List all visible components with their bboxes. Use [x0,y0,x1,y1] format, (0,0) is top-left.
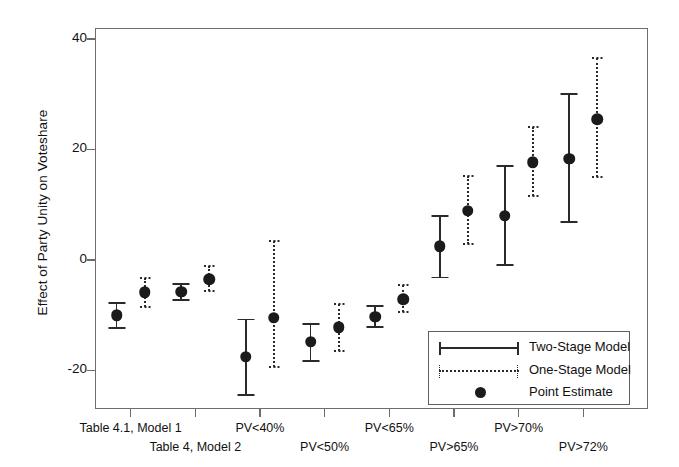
y-axis-tick [87,259,95,260]
error-bar-cap [139,306,150,308]
error-bar-cap [268,366,279,368]
error-bar-cap [173,299,190,301]
error-bar-cap [108,302,125,304]
dotted-line-icon [435,359,525,383]
error-bar-cap [204,265,215,267]
error-bar-cap [592,176,603,178]
chart-legend: Two-Stage Model One-Stage Model Point Es… [428,331,630,405]
x-axis-tick-label: PV<50% [300,440,349,454]
y-axis-tick [87,149,95,150]
error-bar-cap [431,215,448,217]
error-bar-cap [398,284,409,286]
error-bar-cap [496,264,513,266]
x-axis-tick [130,409,131,417]
y-axis-tick-label: 20 [33,140,87,155]
y-axis-tick-label: 40 [33,30,87,45]
y-axis-tick [87,370,95,371]
error-bar-cap [237,319,254,321]
y-axis-tick [87,38,95,39]
error-bar-cap [561,221,578,223]
error-bar-cap [139,277,150,279]
error-bar-cap [398,311,409,313]
error-bar-cap [173,283,190,285]
x-axis-tick [453,409,454,417]
point-estimate-marker [240,351,252,363]
legend-label-point-estimate: Point Estimate [529,384,613,399]
point-estimate-marker [111,309,123,321]
error-bar-cap [333,350,344,352]
error-bar-cap [367,305,384,307]
error-bar-cap [592,57,603,59]
y-axis-label: Effect of Party Unity on Voteshare [35,53,50,373]
y-axis-tick-label: -20 [33,361,87,376]
error-bar-cap [527,126,538,128]
error-bar-cap [561,93,578,95]
error-bar-cap [431,277,448,279]
point-estimate-marker [564,153,576,165]
x-axis-tick [389,409,390,417]
chart-figure: Effect of Party Unity on Voteshare -2002… [0,0,679,467]
legend-item-two-stage: Two-Stage Model [429,336,629,360]
error-bar-cap [302,360,319,362]
error-bar-cap [268,240,279,242]
solid-line-icon [435,336,525,360]
point-estimate-marker [370,311,382,323]
point-estimate-marker [204,273,216,285]
error-bar-cap [367,326,384,328]
error-bar-cap [302,323,319,325]
x-axis-tick-label: PV<65% [365,421,414,435]
error-bar [273,241,275,367]
x-axis-tick-label: Table 4, Model 2 [149,440,241,454]
point-estimate-marker [499,210,511,222]
point-estimate-marker [398,293,410,305]
x-axis-tick-label: PV<40% [235,421,284,435]
error-bar-cap [462,243,473,245]
point-estimate-marker [462,205,474,217]
x-axis-tick-label: PV>72% [559,440,608,454]
error-bar-cap [237,394,254,396]
x-axis-tick-label: Table 4.1, Model 1 [79,421,181,435]
point-estimate-marker [333,322,345,334]
x-axis-tick [324,409,325,417]
point-estimate-marker [305,336,317,348]
legend-label-one-stage: One-Stage Model [529,362,631,377]
x-axis-tick [195,409,196,417]
filled-circle-icon [435,381,525,405]
point-estimate-marker [176,286,188,298]
point-estimate-marker [527,156,539,168]
legend-item-point-estimate: Point Estimate [429,381,629,405]
point-estimate-marker [592,113,604,125]
point-estimate-marker [139,287,151,299]
error-bar-cap [333,303,344,305]
error-bar-cap [462,175,473,177]
error-bar-cap [108,327,125,329]
point-estimate-marker [268,312,280,324]
legend-item-one-stage: One-Stage Model [429,359,629,383]
y-axis-tick-label: 0 [33,251,87,266]
x-axis-tick [518,409,519,417]
error-bar-cap [527,195,538,197]
x-axis-tick [583,409,584,417]
point-estimate-marker [434,240,446,252]
error-bar-cap [496,165,513,167]
legend-label-two-stage: Two-Stage Model [529,339,630,354]
x-axis-tick [259,409,260,417]
error-bar-cap [204,290,215,292]
x-axis-tick-label: PV>70% [494,421,543,435]
x-axis-tick-label: PV>65% [429,440,478,454]
